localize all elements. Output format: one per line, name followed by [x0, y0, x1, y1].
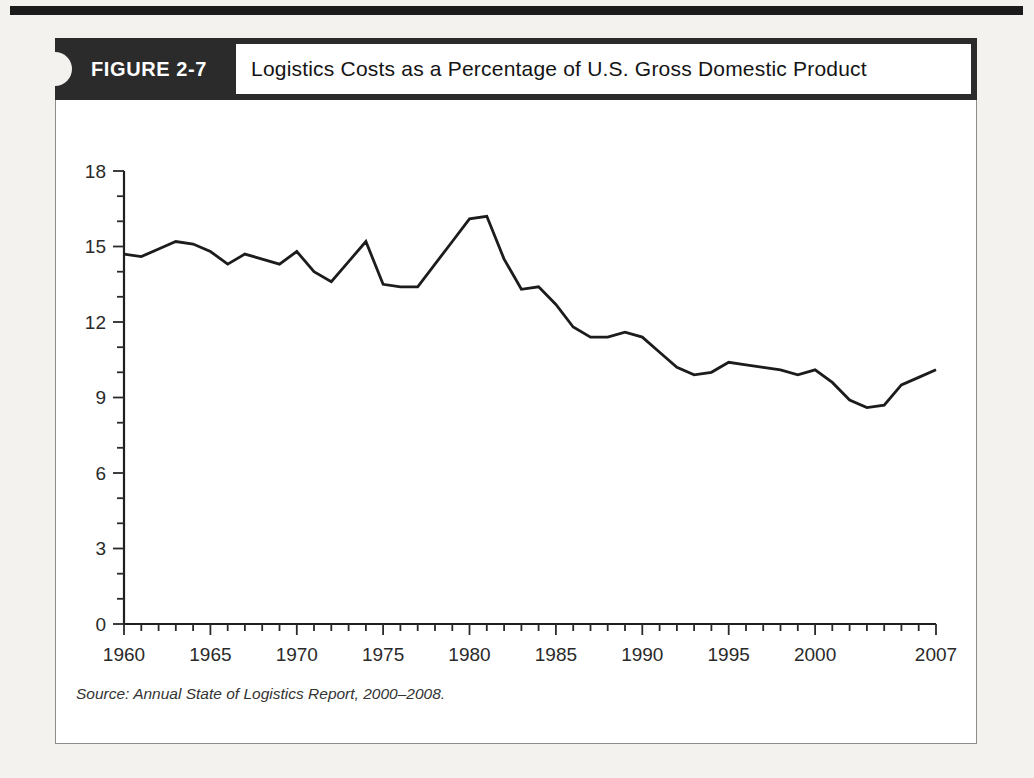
x-tick-label: 1995 — [708, 644, 750, 665]
y-tick-label: 3 — [95, 538, 106, 559]
x-tick-label: 1960 — [103, 644, 145, 665]
y-tick-label: 6 — [95, 463, 106, 484]
y-axis-ticks — [113, 171, 124, 624]
x-tick-label: 1975 — [362, 644, 404, 665]
y-tick-label: 15 — [85, 236, 106, 257]
data-line — [124, 216, 936, 407]
x-axis-ticks — [124, 624, 936, 635]
x-tick-label: 2000 — [794, 644, 836, 665]
x-tick-label: 2007 — [915, 644, 957, 665]
y-tick-label: 12 — [85, 312, 106, 333]
x-tick-label: 1970 — [276, 644, 318, 665]
x-tick-label: 1980 — [448, 644, 490, 665]
page: FIGURE 2-7 Logistics Costs as a Percenta… — [0, 0, 1034, 778]
x-tick-label: 1990 — [621, 644, 663, 665]
y-axis-labels: 0369121518 — [85, 161, 106, 635]
axes — [124, 171, 936, 624]
x-tick-label: 1965 — [189, 644, 231, 665]
y-tick-label: 9 — [95, 387, 106, 408]
y-tick-label: 18 — [85, 161, 106, 182]
y-tick-label: 0 — [95, 614, 106, 635]
source-note: Source: Annual State of Logistics Report… — [76, 685, 445, 703]
page-top-rule — [10, 6, 1023, 15]
figure-box: FIGURE 2-7 Logistics Costs as a Percenta… — [55, 38, 977, 744]
x-tick-label: 1985 — [535, 644, 577, 665]
line-chart-svg: 0369121518196019651970197519801985199019… — [56, 39, 976, 743]
x-axis-labels: 1960196519701975198019851990199520002007 — [103, 644, 957, 665]
